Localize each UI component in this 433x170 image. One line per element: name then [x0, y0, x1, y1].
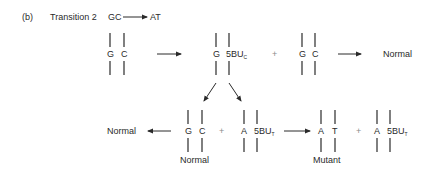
base-5bu-t: 5BUT	[387, 126, 408, 139]
header-from-pair: GC	[108, 12, 122, 22]
base-c: C	[199, 126, 206, 136]
base-c: C	[312, 49, 319, 59]
base-g: G	[107, 49, 114, 59]
base-5bu-c: 5BUC	[226, 49, 247, 62]
plus-sign: +	[219, 126, 224, 136]
arrow-diag-left	[204, 83, 216, 101]
result-normal-left: Normal	[107, 126, 136, 136]
diagram-title: Transition 2	[50, 12, 97, 22]
base-a: A	[241, 126, 247, 136]
result-normal: Normal	[383, 49, 412, 59]
base-c: C	[121, 49, 128, 59]
base-g: G	[213, 49, 220, 59]
arrow-diag-right	[229, 83, 241, 101]
base-t: T	[332, 126, 338, 136]
plus-sign: +	[356, 126, 361, 136]
base-g: G	[185, 126, 192, 136]
base-a: A	[318, 126, 324, 136]
base-g: G	[299, 49, 306, 59]
plus-sign: +	[272, 49, 277, 59]
panel-label: (b)	[22, 12, 33, 22]
diagram-lines	[0, 0, 433, 170]
caption-mutant: Mutant	[313, 155, 341, 165]
base-a: A	[374, 126, 380, 136]
base-5bu-t: 5BUT	[254, 126, 275, 139]
header-to-pair: AT	[150, 12, 161, 22]
caption-normal: Normal	[180, 155, 209, 165]
